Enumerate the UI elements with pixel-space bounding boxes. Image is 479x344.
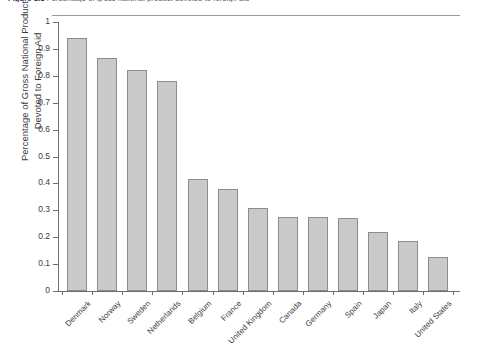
bar	[218, 189, 238, 291]
y-axis-line	[58, 22, 59, 291]
bar	[308, 217, 328, 291]
x-axis-tick	[453, 291, 454, 295]
bar	[67, 38, 87, 291]
x-axis-category-label: Germany	[304, 299, 334, 329]
figure-caption-text: Percentage of gross national product dev…	[47, 0, 250, 2]
y-axis-tick-label: 0.3	[38, 204, 50, 214]
y-axis-tick: 0.7	[53, 103, 58, 104]
x-axis-category-label: Sweden	[126, 299, 153, 326]
bar	[97, 58, 117, 291]
y-axis-tick: 0.5	[53, 157, 58, 158]
x-axis-category-label: Canada	[277, 299, 303, 325]
y-axis-tick-label: 0.8	[38, 70, 50, 80]
y-axis-tick-label: 0.9	[38, 43, 50, 53]
x-axis-category-label: Belgium	[186, 299, 213, 326]
bar	[157, 81, 177, 291]
y-axis-tick-label: 0.6	[38, 124, 50, 134]
bar	[127, 70, 147, 291]
x-axis-tick	[333, 291, 334, 295]
y-axis-tick: 1	[53, 22, 58, 23]
y-axis-tick-label: 1	[45, 16, 50, 26]
x-axis-tick	[423, 291, 424, 295]
x-axis-tick	[243, 291, 244, 295]
x-axis-tick	[303, 291, 304, 295]
bar	[188, 179, 208, 291]
x-axis-tick	[62, 291, 63, 295]
y-axis-tick-label: 0.5	[38, 151, 50, 161]
y-axis-tick: 0.4	[53, 183, 58, 184]
x-axis-tick	[363, 291, 364, 295]
y-axis-tick: 0.9	[53, 49, 58, 50]
bar	[338, 218, 358, 291]
y-axis-tick-label: 0	[45, 285, 50, 295]
x-axis-category-label: France	[219, 299, 243, 323]
x-axis-category-label: Norway	[97, 299, 123, 325]
y-axis-tick-label: 0.4	[38, 177, 50, 187]
bar	[278, 217, 298, 291]
bar	[368, 232, 388, 291]
y-axis-tick: 0.6	[53, 130, 58, 131]
x-axis-tick	[213, 291, 214, 295]
y-axis-tick: 0	[53, 291, 58, 292]
y-axis-tick: 0.8	[53, 76, 58, 77]
bar	[248, 208, 268, 291]
y-axis-tick-label: 0.7	[38, 97, 50, 107]
x-axis-tick	[273, 291, 274, 295]
y-axis-tick: 0.2	[53, 237, 58, 238]
x-axis-tick	[152, 291, 153, 295]
x-axis-category-label: Italy	[407, 299, 424, 316]
y-axis-tick: 0.3	[53, 210, 58, 211]
x-axis-category-label: Denmark	[63, 299, 92, 328]
bar	[428, 257, 448, 291]
y-axis-label-line-1: Percentage of Gross National Product	[18, 0, 31, 194]
x-axis-tick	[122, 291, 123, 295]
y-axis-tick: 0.1	[53, 264, 58, 265]
figure-container: Figure 1.1 Percentage of gross national …	[0, 0, 479, 344]
x-axis-category-label: Spain	[343, 299, 364, 320]
figure-caption: Figure 1.1 Percentage of gross national …	[8, 0, 448, 2]
bar	[398, 241, 418, 291]
x-axis-category-label: Japan	[372, 299, 394, 321]
y-axis-tick-label: 0.1	[38, 258, 50, 268]
caption-divider-rule	[52, 15, 460, 16]
x-axis-line	[58, 291, 460, 292]
x-axis-tick	[92, 291, 93, 295]
x-axis-tick	[182, 291, 183, 295]
x-axis-tick	[393, 291, 394, 295]
y-axis-tick-label: 0.2	[38, 231, 50, 241]
plot-area: 00.10.20.30.40.50.60.70.80.91DenmarkNorw…	[58, 22, 460, 291]
